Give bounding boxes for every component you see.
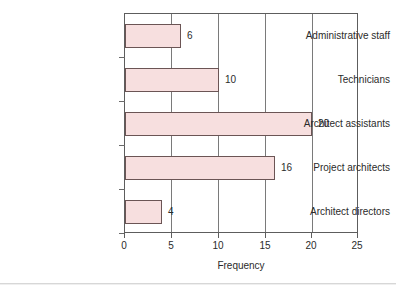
x-axis-tick-20 [311, 233, 312, 238]
category-label-technicians: Technicians [272, 74, 390, 86]
bottom-divider-shadow [0, 284, 396, 285]
x-axis-label-5: 5 [159, 240, 183, 252]
x-axis-label-25: 25 [345, 240, 369, 252]
bar-chart: 6 10 20 16 4 Administrative staff Techni… [0, 0, 396, 291]
x-axis-tick-10 [218, 233, 219, 238]
bar-value-architect-directors: 4 [168, 202, 174, 222]
x-axis-tick-15 [265, 233, 266, 238]
x-axis-tick-0 [124, 233, 125, 238]
bar-value-administrative-staff: 6 [187, 26, 193, 46]
x-axis-label-0: 0 [112, 240, 136, 252]
category-label-project-architects: Project architects [272, 162, 390, 174]
bar-technicians [125, 68, 219, 92]
category-label-architect-assistants: Architect assistants [272, 118, 390, 130]
y-axis-tick [119, 145, 125, 146]
x-axis-tick-5 [171, 233, 172, 238]
bar-project-architects [125, 156, 275, 180]
bar-value-technicians: 10 [225, 70, 236, 90]
x-axis-title: Frequency [124, 259, 358, 272]
y-axis-tick [119, 101, 125, 102]
y-axis-tick [119, 189, 125, 190]
bar-administrative-staff [125, 24, 181, 48]
category-label-architect-directors: Architect directors [272, 206, 390, 218]
y-axis-tick [119, 57, 125, 58]
category-label-administrative-staff: Administrative staff [272, 30, 390, 42]
x-axis-label-10: 10 [206, 240, 230, 252]
x-axis-label-15: 15 [253, 240, 277, 252]
bar-architect-directors [125, 200, 162, 224]
x-axis-label-20: 20 [299, 240, 323, 252]
x-axis-tick-25 [357, 233, 358, 238]
